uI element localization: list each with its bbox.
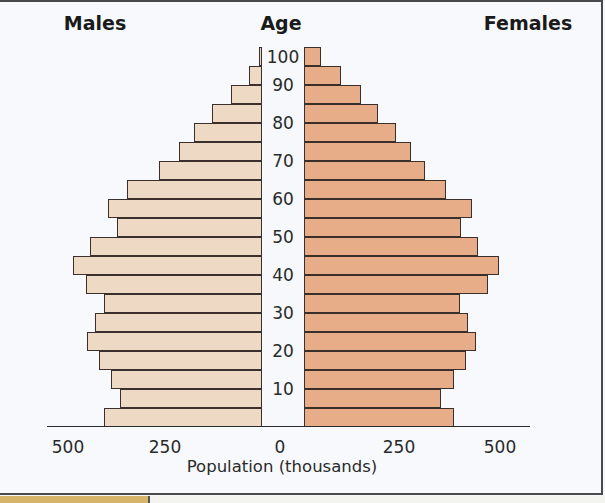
male-bar-5-9 — [120, 389, 262, 408]
x-axis-line — [47, 426, 530, 427]
female-bar-40-44 — [304, 256, 499, 275]
female-bar-65-69 — [304, 161, 425, 180]
male-axis-line — [261, 47, 262, 427]
females-header: Females — [484, 12, 572, 34]
female-bar-5-9 — [304, 389, 441, 408]
female-bar-80-84 — [304, 104, 378, 123]
age-header: Age — [260, 12, 301, 34]
figure-caption-strip — [0, 496, 605, 503]
males-header: Males — [64, 12, 126, 34]
x-tick-zero: 0 — [275, 437, 286, 457]
age-tick-80: 80 — [271, 114, 295, 132]
age-tick-30: 30 — [271, 304, 295, 322]
female-bar-30-34 — [304, 294, 460, 313]
female-bar-35-39 — [304, 275, 488, 294]
age-tick-10: 10 — [271, 380, 295, 398]
age-tick-20: 20 — [271, 342, 295, 360]
female-bar-60-64 — [304, 180, 446, 199]
female-bar-20-24 — [304, 332, 476, 351]
male-bar-50-54 — [117, 218, 262, 237]
female-bar-90-94 — [304, 66, 341, 85]
x-axis-title: Population (thousands) — [187, 457, 378, 476]
female-bar-25-29 — [304, 313, 468, 332]
male-bar-40-44 — [73, 256, 262, 275]
male-bar-10-14 — [111, 370, 262, 389]
x-tick-male-500: 500 — [52, 437, 84, 457]
x-tick-female-500: 500 — [484, 437, 516, 457]
male-bar-55-59 — [108, 199, 262, 218]
male-bar-60-64 — [127, 180, 262, 199]
figure-caption-tag — [0, 496, 150, 503]
age-tick-50: 50 — [271, 228, 295, 246]
female-bar-15-19 — [304, 351, 466, 370]
figure-caption-text — [150, 496, 605, 503]
male-bar-70-74 — [179, 142, 262, 161]
male-bar-35-39 — [86, 275, 262, 294]
female-bar-45-49 — [304, 237, 478, 256]
male-bar-15-19 — [99, 351, 262, 370]
female-bar-55-59 — [304, 199, 472, 218]
female-bar-70-74 — [304, 142, 411, 161]
male-bar-30-34 — [104, 294, 262, 313]
female-bar-75-79 — [304, 123, 396, 142]
female-axis-line — [304, 47, 305, 427]
male-bar-65-69 — [159, 161, 262, 180]
male-bar-20-24 — [87, 332, 262, 351]
age-tick-100: 100 — [266, 48, 300, 66]
age-tick-60: 60 — [271, 190, 295, 208]
female-bar-0-4 — [304, 408, 454, 427]
age-tick-70: 70 — [271, 152, 295, 170]
male-bar-75-79 — [194, 123, 262, 142]
female-bar-85-89 — [304, 85, 361, 104]
age-tick-90: 90 — [271, 76, 295, 94]
male-bar-25-29 — [95, 313, 262, 332]
female-bar-95-99 — [304, 47, 321, 66]
male-bar-0-4 — [104, 408, 262, 427]
age-tick-40: 40 — [271, 266, 295, 284]
x-tick-male-250: 250 — [149, 437, 181, 457]
male-bar-85-89 — [231, 85, 262, 104]
male-bar-45-49 — [90, 237, 262, 256]
x-tick-female-250: 250 — [383, 437, 415, 457]
female-bar-10-14 — [304, 370, 454, 389]
male-bar-80-84 — [212, 104, 262, 123]
female-bar-50-54 — [304, 218, 461, 237]
